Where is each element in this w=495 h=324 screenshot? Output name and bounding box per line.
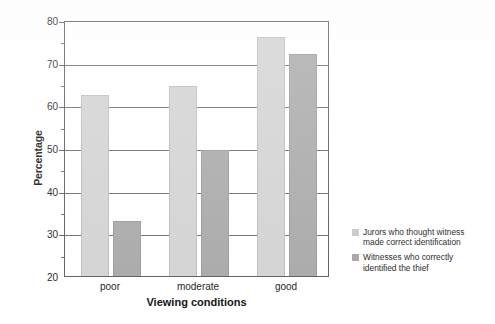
legend-item-witnesses: Witnesses who correctly identified the t… bbox=[352, 252, 492, 272]
x-tick-label-good: good bbox=[275, 281, 297, 292]
legend-swatch-icon-jurors bbox=[352, 229, 359, 236]
legend-label-jurors-line2: made correct identification bbox=[363, 237, 461, 247]
bar-poor-jurors bbox=[81, 95, 109, 276]
y-tick-label-70: 70 bbox=[28, 58, 58, 69]
x-axis-tick-labels: poor moderate good bbox=[64, 281, 329, 297]
bar-poor-witnesses bbox=[113, 221, 141, 276]
y-tick-label-80: 80 bbox=[28, 16, 58, 27]
bar-good-witnesses bbox=[289, 54, 317, 276]
y-tick-label-30: 30 bbox=[28, 229, 58, 240]
bar-chart-figure: Percentage 20 30 40 50 60 70 80 bbox=[0, 0, 495, 324]
legend-swatch-icon-witnesses bbox=[352, 254, 359, 261]
plot-area bbox=[64, 21, 329, 277]
y-tick-label-60: 60 bbox=[28, 101, 58, 112]
legend-label-jurors-line1: Jurors who thought witness bbox=[363, 227, 464, 237]
y-axis-tick-labels: 20 30 40 50 60 70 80 bbox=[26, 21, 58, 277]
bar-moderate-jurors bbox=[169, 86, 197, 276]
y-tick-label-20: 20 bbox=[28, 272, 58, 283]
legend-item-jurors: Jurors who thought witness made correct … bbox=[352, 227, 492, 247]
legend-label-witnesses-line2: identified the thief bbox=[363, 263, 429, 273]
x-tick-label-moderate: moderate bbox=[177, 281, 219, 292]
legend-label-witnesses: Witnesses who correctly identified the t… bbox=[363, 252, 479, 272]
chart-legend: Jurors who thought witness made correct … bbox=[352, 227, 492, 278]
bar-series-group bbox=[65, 22, 328, 276]
legend-label-witnesses-line1: Witnesses who correctly bbox=[363, 252, 453, 262]
y-tick-label-40: 40 bbox=[28, 186, 58, 197]
bar-moderate-witnesses bbox=[201, 150, 229, 276]
y-tick-label-50: 50 bbox=[28, 144, 58, 155]
bar-good-jurors bbox=[257, 37, 285, 276]
x-axis-title: Viewing conditions bbox=[64, 296, 329, 308]
x-tick-label-poor: poor bbox=[100, 281, 120, 292]
legend-label-jurors: Jurors who thought witness made correct … bbox=[363, 227, 479, 247]
